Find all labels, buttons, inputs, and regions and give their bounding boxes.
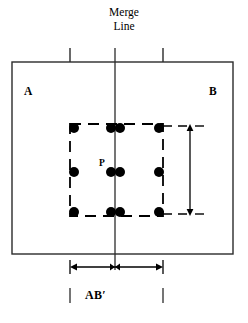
top-tick-marks [70,48,163,62]
point-marker [115,207,125,217]
point-marker [106,123,116,133]
merge-line-label: MergeLine [88,6,160,33]
point-marker [154,123,164,133]
bottom-tick-marks [70,288,163,303]
point-markers [69,123,164,217]
point-marker [69,123,79,133]
diagram-canvas [0,0,248,323]
vertical-dimension-arrow [163,124,204,216]
point-marker [115,123,125,133]
merge-line-diagram: MergeLine A B P AB′ [0,0,248,323]
point-marker [154,167,164,177]
point-p-label: P [99,158,105,169]
point-marker [154,207,164,217]
point-marker [106,167,116,177]
region-b-label: B [209,85,217,99]
region-a-label: A [24,85,32,99]
point-marker [106,207,116,217]
outer-region-rectangle [12,62,233,254]
horizontal-dimension-arrow [70,260,163,274]
point-marker [69,207,79,217]
merge-line-label-line1: Merge [109,6,139,18]
merge-line-label-line2: Line [113,20,134,32]
dimension-label: AB′ [85,288,106,302]
point-marker [115,167,125,177]
point-marker [69,167,79,177]
